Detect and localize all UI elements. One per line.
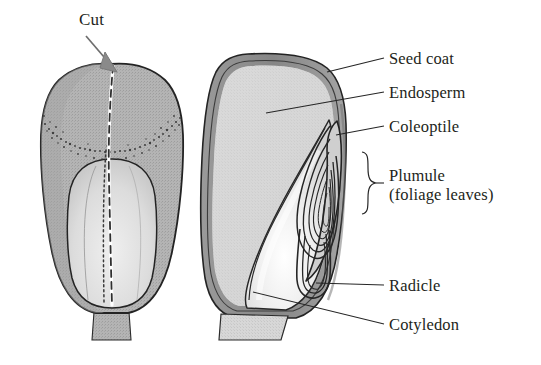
section-stalk: [219, 314, 288, 340]
label-plumule: Plumule (foliage leaves): [389, 166, 494, 205]
label-radicle: Radicle: [389, 276, 440, 295]
cut-label: Cut: [79, 10, 104, 30]
label-cotyledon: Cotyledon: [389, 315, 459, 334]
whole-grain-illustration: [41, 64, 183, 340]
label-plumule-main: Plumule: [389, 166, 494, 185]
label-seed-coat: Seed coat: [389, 49, 454, 68]
label-endosperm: Endosperm: [389, 83, 466, 102]
grain-stalk: [92, 312, 131, 340]
label-coleoptile: Coleoptile: [389, 117, 459, 136]
leader-seed-coat: [327, 58, 384, 72]
plumule-brace: [362, 152, 376, 214]
label-plumule-sub: (foliage leaves): [389, 185, 494, 204]
